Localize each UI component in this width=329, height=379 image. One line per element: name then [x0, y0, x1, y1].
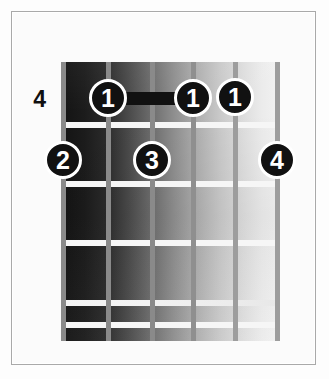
chord-diagram-stage: 111234 4: [0, 0, 329, 379]
starting-fret-number: 4: [18, 88, 46, 111]
fret-line-5: [61, 322, 279, 328]
finger-marker-2-string-1: 2: [44, 141, 82, 179]
string-6-high-e: [275, 62, 280, 341]
fret-line-1: [61, 122, 279, 128]
finger-marker-1-string-2: 1: [89, 79, 127, 117]
fret-line-2: [61, 181, 279, 187]
finger-marker-3-string-3: 3: [133, 141, 171, 179]
finger-marker-1-string-4: 1: [174, 79, 212, 117]
string-1-low-e: [61, 62, 66, 341]
finger-marker-1-string-5: 1: [216, 78, 254, 116]
fret-line-4: [61, 300, 279, 306]
finger-marker-4-string-6: 4: [258, 141, 296, 179]
chord-diagram-screenshot: 111234 4: [0, 0, 329, 379]
fret-line-3: [61, 240, 279, 246]
